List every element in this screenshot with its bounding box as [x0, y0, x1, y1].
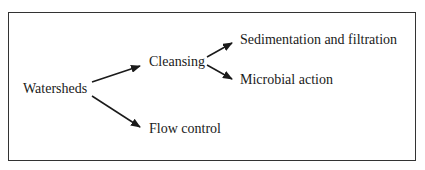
- arrow-cleansing-microbial: [207, 65, 232, 79]
- arrow-cleansing-sedimentation: [207, 43, 232, 57]
- arrow-watersheds-flow: [92, 96, 140, 127]
- arrow-watersheds-cleansing: [92, 66, 140, 82]
- arrows: [0, 0, 425, 170]
